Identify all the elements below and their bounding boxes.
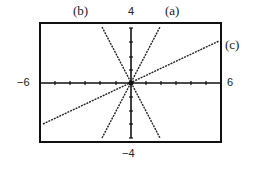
ymax-label: 4 [128, 6, 134, 17]
label-c: (c) [225, 38, 239, 51]
xmax-label: 6 [227, 77, 233, 88]
ymin-label: −4 [122, 148, 135, 159]
origin-point [129, 81, 134, 86]
graph-canvas [0, 0, 253, 171]
xmin-label: −6 [17, 77, 30, 88]
label-b: (b) [73, 4, 88, 17]
label-a: (a) [165, 4, 179, 17]
